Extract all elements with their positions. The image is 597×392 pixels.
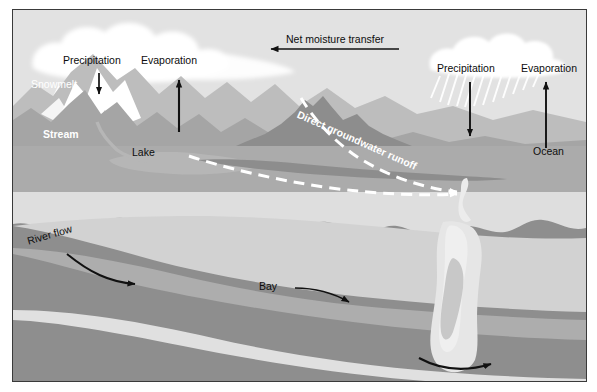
label-net-moisture-transfer: Net moisture transfer bbox=[286, 34, 384, 45]
label-evaporation-ocean: Evaporation bbox=[521, 63, 577, 74]
label-lake: Lake bbox=[132, 147, 155, 158]
label-ocean: Ocean bbox=[533, 146, 564, 157]
label-snowmelt: Snowmelt bbox=[31, 79, 77, 90]
label-bay: Bay bbox=[259, 281, 277, 292]
label-stream: Stream bbox=[43, 129, 79, 140]
figure-container: Precipitation Evaporation Snowmelt Strea… bbox=[0, 0, 597, 392]
label-precipitation-ocean: Precipitation bbox=[437, 63, 495, 74]
diagram-frame: Precipitation Evaporation Snowmelt Strea… bbox=[12, 9, 587, 382]
label-evaporation-land: Evaporation bbox=[141, 55, 197, 66]
label-precipitation-land: Precipitation bbox=[63, 55, 121, 66]
